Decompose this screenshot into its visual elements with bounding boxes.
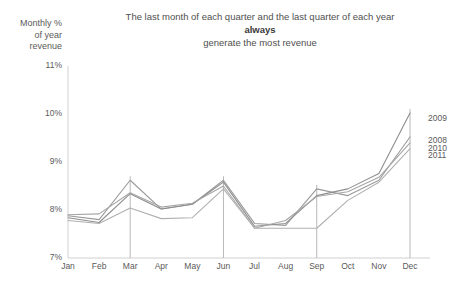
x-tick-label-jan: Jan <box>51 261 85 271</box>
x-tick-label-sep: Sep <box>300 261 334 271</box>
series-lines <box>68 113 410 228</box>
y-tick-label-11pct: 11% <box>22 60 62 70</box>
x-tick-label-apr: Apr <box>144 261 178 271</box>
y-tick-label-10pct: 10% <box>22 108 62 118</box>
plot-area <box>0 0 463 288</box>
x-tick-label-nov: Nov <box>362 261 396 271</box>
x-tick-label-dec: Dec <box>393 261 427 271</box>
x-tick-label-oct: Oct <box>331 261 365 271</box>
series-line-2008 <box>68 137 410 225</box>
y-tick-label-9pct: 9% <box>22 156 62 166</box>
x-tick-label-may: May <box>175 261 209 271</box>
series-label-2009: 2009 <box>428 113 447 123</box>
series-line-2011 <box>68 149 410 229</box>
axes-group <box>68 66 430 258</box>
series-label-2011: 2011 <box>428 150 446 160</box>
x-tick-label-aug: Aug <box>269 261 303 271</box>
x-tick-label-mar: Mar <box>113 261 147 271</box>
x-tick-label-jun: Jun <box>206 261 240 271</box>
series-line-2010 <box>68 143 410 228</box>
quarter-marker-lines <box>130 109 410 258</box>
chart-container: Monthly % of year revenue The last month… <box>0 0 463 288</box>
x-tick-label-feb: Feb <box>82 261 116 271</box>
x-tick-label-jul: Jul <box>238 261 272 271</box>
y-tick-label-8pct: 8% <box>22 204 62 214</box>
